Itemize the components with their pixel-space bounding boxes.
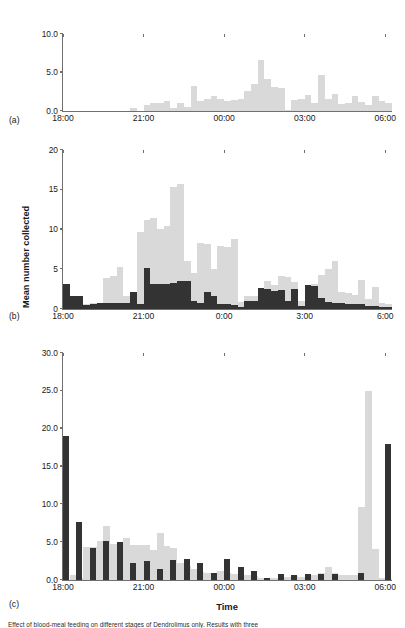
panel-c-x-tick-mark (143, 353, 144, 356)
panel-b: (b) Mean number collected 0510152018:002… (0, 130, 405, 325)
panel-c-bar-light-grey (150, 550, 157, 580)
panel-c-bar-dark (264, 578, 270, 580)
panel-c-bar-light-grey (244, 575, 251, 580)
panel-b-bar-dark (251, 301, 258, 309)
panel-c-bar-dark (157, 569, 163, 580)
panel-a-bar-light-grey (150, 103, 157, 111)
panel-b-bar-dark (164, 284, 171, 309)
panel-a-bar-light-grey (311, 103, 318, 111)
panel-c-bar-dark (197, 563, 203, 580)
panel-a-bar-light-grey (345, 103, 352, 111)
panel-b-bar-dark (238, 307, 245, 309)
panel-c-bar-dark (130, 563, 136, 580)
panel-c-x-tick-label: 03:00 (294, 583, 316, 592)
panel-a-y-tick-label: 10.0 (42, 30, 58, 38)
panel-c-bar-light-grey (358, 507, 365, 580)
panel-b-x-tick-mark (143, 150, 144, 153)
panel-c-bar-dark (278, 574, 284, 580)
panel-a-x-tick-label: 00:00 (213, 114, 235, 123)
panel-a-bar-light-grey (170, 108, 177, 111)
panel-b-bar-dark (365, 306, 372, 309)
panel-a-bar-light-grey (144, 105, 151, 111)
panel-b-x-tick-label: 0:00 (216, 312, 233, 321)
panel-a-bar-light-grey (278, 88, 285, 111)
panel-a-bar-light-grey (264, 79, 271, 111)
panel-a-x-tick-label: 18:00 (52, 114, 74, 123)
panel-a-bar-light-grey (211, 96, 218, 111)
panel-b-y-tick-label: 20 (49, 146, 58, 154)
panel-b-x-tick-mark (224, 150, 225, 153)
panel-c-x-tick-label: 21:00 (133, 583, 155, 592)
panel-b-bar-dark (157, 284, 164, 309)
panel-a-bar-light-grey (231, 100, 238, 111)
figure-panel-group: (a) 0.05.010.018:0021:0000:0003:0006:00 … (0, 0, 405, 628)
panel-a-bar-light-grey (238, 99, 245, 111)
panel-c-y-tick-label: 30.0 (42, 349, 58, 357)
panel-b-x-tick-mark (385, 150, 386, 153)
panel-b-bar-dark (97, 303, 104, 309)
panel-c-bar-light-grey (97, 541, 104, 580)
panel-b-bar-dark (83, 305, 90, 309)
panel-b-bar-dark (298, 306, 305, 309)
panel-b-y-tick-mark (60, 228, 64, 229)
panel-a-bar-light-grey (285, 110, 292, 111)
panel-c-bar-light-grey (258, 578, 265, 580)
figure-caption: Effect of blood-meal feeding on differen… (8, 620, 400, 628)
panel-b-x-tick-label: 3:00 (296, 312, 313, 321)
panel-c-bar-dark (211, 573, 217, 580)
panel-c: (c) 0.05.010.015.020.025.030.018:0021:00… (0, 325, 405, 620)
panel-c-x-tick-label: 06:00 (375, 583, 397, 592)
panel-b-bar-dark (278, 290, 285, 309)
panel-b-bar-dark (103, 303, 110, 309)
panel-a-x-tick-mark (62, 34, 63, 37)
panel-b-bar-dark (117, 303, 124, 309)
panel-a-bar-light-grey (385, 103, 392, 111)
panel-b-bar-light-grey (137, 232, 144, 309)
panel-b-bar-dark (177, 281, 184, 309)
panel-b-plot-area: 0510152018:0021:000:003:006:00 (62, 150, 392, 310)
panel-b-bar-light-grey (217, 246, 224, 309)
panel-c-y-tick-label: 20.0 (42, 424, 58, 432)
panel-a-bar-light-grey (177, 103, 184, 111)
panel-c-x-tick-label: 18:00 (52, 583, 74, 592)
panel-a-bar-light-grey (332, 94, 339, 111)
panel-b-bar-dark (285, 301, 292, 309)
panel-a-x-tick-mark (143, 34, 144, 37)
panel-a-x-tick-label: 03:00 (294, 114, 316, 123)
panel-b-bar-dark (110, 303, 117, 309)
panel-c-bar-dark (358, 573, 364, 580)
panel-c-bar-dark (117, 542, 123, 580)
panel-c-bars (63, 353, 392, 580)
panel-c-bar-dark (103, 541, 109, 580)
panel-c-bar-dark (332, 574, 338, 580)
panel-c-bar-dark (170, 560, 176, 580)
panel-b-bar-dark (305, 285, 312, 309)
y-axis-title: Mean number collected (22, 206, 31, 308)
panel-c-bar-light-grey (271, 578, 278, 580)
panel-c-bar-light-grey (285, 577, 292, 580)
panel-b-bar-dark (358, 304, 365, 309)
panel-a-y-tick-mark (60, 71, 64, 72)
panel-b-bar-dark (184, 281, 191, 309)
panel-a-y-tick-label: 5.0 (46, 68, 58, 76)
panel-b-x-tick-label: 18:00 (52, 312, 74, 321)
panel-b-bar-dark (345, 304, 352, 309)
panel-b-y-tick-label: 15 (49, 186, 58, 194)
panel-c-bar-dark (291, 575, 297, 580)
panel-c-letter: (c) (9, 600, 19, 609)
panel-b-bar-dark (211, 296, 218, 309)
panel-b-y-tick-mark (60, 189, 64, 190)
panel-b-bar-dark (372, 306, 379, 309)
panel-c-bar-dark (144, 561, 150, 580)
panel-a-bar-light-grey (204, 99, 211, 111)
panel-a-bar-light-grey (358, 102, 365, 111)
panel-a-letter: (a) (9, 116, 20, 125)
panel-c-bar-light-grey (365, 391, 372, 580)
panel-b-bar-dark (204, 292, 211, 309)
panel-b-bar-dark (311, 286, 318, 309)
panel-a-bar-light-grey (298, 99, 305, 111)
panel-a-bar-light-grey (305, 95, 312, 111)
panel-b-bar-dark (130, 292, 137, 309)
panel-c-x-tick-mark (62, 353, 63, 356)
panel-b-bar-dark (258, 288, 265, 309)
